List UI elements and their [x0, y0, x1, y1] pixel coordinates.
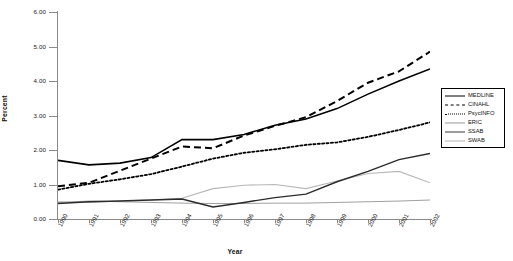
legend-item-ssab[interactable]: SSAB	[444, 127, 502, 136]
y-axis-tick	[49, 185, 57, 186]
legend-label: SWAB	[466, 137, 485, 144]
series-line-swab	[58, 171, 430, 202]
legend-label: PsycINFO	[466, 110, 494, 117]
x-axis-tick-label: 2002	[429, 213, 441, 228]
legend-swatch-psycinfo	[444, 110, 466, 117]
y-axis-tick	[49, 47, 57, 48]
series-line-cinahl	[58, 52, 430, 187]
legend-item-psycinfo[interactable]: PsycINFO	[444, 109, 502, 118]
chart-legend: MEDLINECINAHLPsycINFOERICSSABSWAB	[441, 88, 505, 148]
y-axis-tick-label: 3.00	[8, 113, 46, 119]
legend-label: MEDLINE	[466, 92, 494, 99]
legend-item-swab[interactable]: SWAB	[444, 136, 502, 145]
legend-label: CINAHL	[466, 101, 489, 108]
y-axis-tick-label: 5.00	[8, 44, 46, 50]
legend-swatch-swab	[444, 137, 466, 144]
legend-swatch-eric	[444, 119, 466, 126]
legend-swatch-cinahl	[444, 101, 466, 108]
y-axis-tick	[49, 81, 57, 82]
series-lines	[58, 12, 430, 219]
y-axis-tick	[49, 150, 57, 151]
series-line-psycinfo	[58, 122, 430, 189]
series-line-medline	[58, 69, 430, 165]
y-axis-title: Percent	[1, 95, 8, 121]
y-axis-tick	[49, 219, 57, 220]
legend-swatch-ssab	[444, 128, 466, 135]
x-axis-title: Year	[0, 248, 470, 255]
chart-figure: Percent 0.001.002.003.004.005.006.00 199…	[0, 0, 513, 261]
y-axis-tick-label: 6.00	[8, 9, 46, 15]
y-axis-tick-label: 1.00	[8, 182, 46, 188]
y-axis-tick-label: 2.00	[8, 147, 46, 153]
legend-label: SSAB	[466, 128, 483, 135]
legend-item-medline[interactable]: MEDLINE	[444, 91, 502, 100]
y-axis-tick	[49, 116, 57, 117]
y-axis-tick-label: 0.00	[8, 216, 46, 222]
plot-area	[58, 12, 430, 219]
y-axis-tick-label: 4.00	[8, 78, 46, 84]
legend-swatch-medline	[444, 92, 466, 99]
legend-item-cinahl[interactable]: CINAHL	[444, 100, 502, 109]
y-axis-tick	[49, 12, 57, 13]
legend-item-eric[interactable]: ERIC	[444, 118, 502, 127]
legend-label: ERIC	[466, 119, 482, 126]
